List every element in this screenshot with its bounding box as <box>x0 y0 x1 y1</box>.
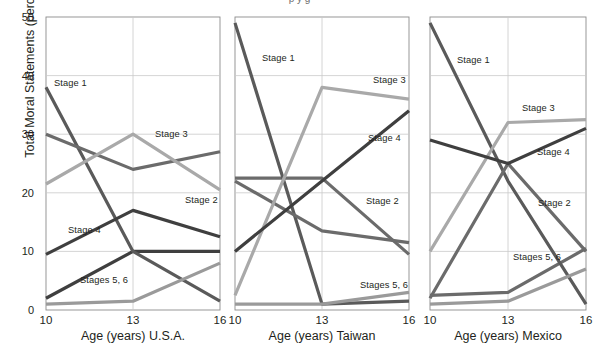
usa-panel-caption: Age (years) U.S.A. <box>81 329 185 343</box>
mexico-label-stage2: Stage 2 <box>538 198 571 208</box>
taiwan-panel-caption: Age (years) Taiwan <box>269 329 376 343</box>
mexico-label-stage1: Stage 1 <box>457 55 490 65</box>
usa-label-stage2: Stage 2 <box>185 195 218 205</box>
mexico-label-stage4: Stage 4 <box>537 147 570 157</box>
mexico-x-tick-16: 16 <box>580 314 593 326</box>
mexico-x-tick-13: 13 <box>502 314 515 326</box>
taiwan-label-stage3: Stage 3 <box>373 75 406 85</box>
mexico-label-stage3: Stage 3 <box>522 103 555 113</box>
taiwan-x-tick-10: 10 <box>229 314 242 326</box>
mexico-panel-caption: Age (years) Mexico <box>454 329 562 343</box>
taiwan-label-stage2: Stage 2 <box>366 196 399 206</box>
taiwan-x-tick-16: 16 <box>403 314 416 326</box>
usa-label-stage1: Stage 1 <box>54 78 87 88</box>
usa-x-tick-13: 13 <box>127 314 140 326</box>
usa-label-stage3: Stage 3 <box>155 129 188 139</box>
figure-root: p y g Total Moral Statements (percent) 5… <box>0 0 599 343</box>
taiwan-label-stage1: Stage 1 <box>262 53 295 63</box>
usa-label-stage4: Stage 4 <box>68 225 101 235</box>
usa-x-tick-16: 16 <box>214 314 227 326</box>
chart-canvas <box>0 0 599 343</box>
mexico-label-stage56: Stages 5, 6 <box>513 252 561 262</box>
usa-x-tick-10: 10 <box>40 314 53 326</box>
taiwan-label-stage56: Stages 5, 6 <box>360 280 408 290</box>
taiwan-x-tick-13: 13 <box>316 314 329 326</box>
mexico-x-tick-10: 10 <box>424 314 437 326</box>
usa-label-stage56: Stages 5, 6 <box>80 275 128 285</box>
taiwan-label-stage4: Stage 4 <box>368 133 401 143</box>
